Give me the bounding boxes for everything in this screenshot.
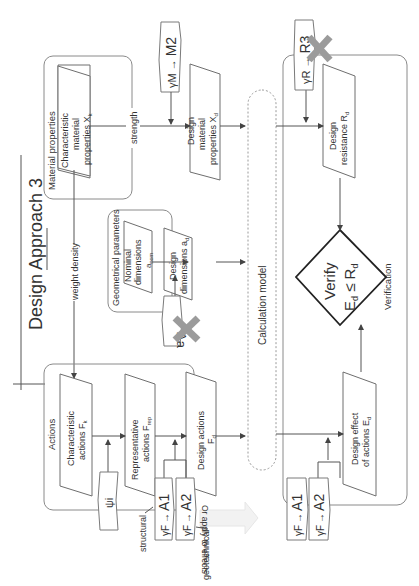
weight-density-label: weight density xyxy=(70,242,80,301)
psi-factor: ψi xyxy=(98,472,118,530)
nominal-dims-line2: dimensions xyxy=(133,239,143,285)
gamma-f-effects: γF→A1 γF→A2 xyxy=(287,478,330,540)
design-resistance-line1: Design xyxy=(328,122,338,150)
calculation-model-label: Calculation model xyxy=(257,266,268,346)
design-actions-line1: Design actions xyxy=(196,410,206,470)
apply-to-effects-label: Or apply to effects xyxy=(200,505,210,574)
rep-actions-line1: Representative xyxy=(130,419,140,480)
char-material-line2: material xyxy=(71,118,81,150)
actions-label: Actions xyxy=(46,419,57,450)
design-dims-line2: dimensions ad xyxy=(179,238,190,294)
design-material-line3: properties Xd xyxy=(208,113,219,165)
gamma-m-factor: γM→M2 xyxy=(159,22,181,124)
psi-text: ψi xyxy=(103,498,115,508)
design-material-line1: Design xyxy=(186,117,196,145)
char-actions-line1: Characteristic xyxy=(66,410,76,466)
char-actions-node xyxy=(60,374,92,496)
verify-condition: Ed ≤ Rd xyxy=(341,264,360,311)
diagram-title: Design Approach 3 xyxy=(26,178,46,330)
verification-label: Verification xyxy=(382,264,393,310)
gamma-f-effects-bracket xyxy=(318,462,340,478)
group-verification: Verification Design resistance Rd Design… xyxy=(276,55,407,505)
group-calculation-model: Calculation model xyxy=(248,90,276,470)
structural-label: structural xyxy=(138,515,148,552)
char-material-line3: properties Xk xyxy=(82,112,93,165)
gamma-f-actions-bracket xyxy=(164,460,186,478)
design-approach-diagram: Design Approach 3 Material properties Ch… xyxy=(0,0,419,586)
nominal-dims-line1: Nominal xyxy=(123,249,133,282)
verify-label: Verify xyxy=(321,262,338,300)
title-block: Design Approach 3 xyxy=(13,155,47,390)
strength-label: strength xyxy=(129,111,139,144)
char-actions-line2: actions Fk xyxy=(77,419,88,460)
design-effect-line1: Design effect xyxy=(350,412,360,465)
gamma-m-text: γM→M2 xyxy=(163,37,179,88)
design-material-line2: material xyxy=(197,118,207,150)
char-material-line1: Characteristic xyxy=(60,112,70,168)
design-resistance-line2: resistance Rd xyxy=(339,112,350,165)
material-properties-label: Material properties xyxy=(46,111,57,190)
group-actions: Actions Characteristic actions Fk Repres… xyxy=(44,364,245,510)
design-effect-line2: of actions Ed xyxy=(361,417,372,467)
delta-a-factor: Δa xyxy=(162,296,198,349)
apply-to-effects-hint: Or apply to effects xyxy=(200,502,258,574)
design-dims-line1: Design xyxy=(168,252,178,280)
geometrical-parameters-label: Geometrical parameters xyxy=(111,209,121,306)
